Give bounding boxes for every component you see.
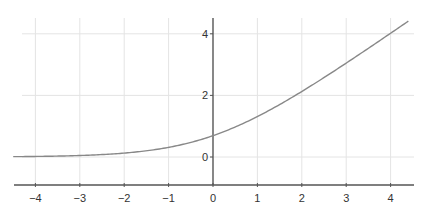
curve-layer (13, 21, 408, 157)
x-tick-label: −2 (118, 192, 131, 204)
x-tick-labels: −4−3−2−101234 (29, 192, 394, 204)
x-tick-label: 4 (388, 192, 394, 204)
softplus-curve (13, 21, 408, 157)
x-tick-label: −4 (29, 192, 42, 204)
y-tick-label: 2 (202, 89, 208, 101)
x-tick-label: 3 (343, 192, 349, 204)
x-tick-label: 1 (254, 192, 260, 204)
x-tick-label: 2 (299, 192, 305, 204)
axes (14, 18, 414, 187)
y-tick-label: 4 (202, 28, 208, 40)
softplus-chart: −4−3−2−101234 024 (0, 0, 426, 214)
y-tick-labels: 024 (202, 28, 208, 163)
x-tick-label: −3 (74, 192, 87, 204)
x-tick-label: 0 (210, 192, 216, 204)
y-tick-label: 0 (202, 151, 208, 163)
grid-lines (22, 18, 414, 185)
x-tick-label: −1 (162, 192, 175, 204)
